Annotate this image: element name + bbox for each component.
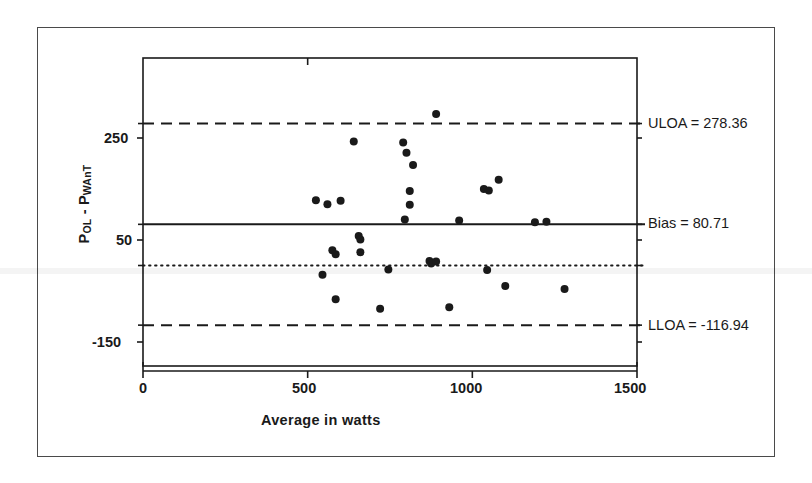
y-axis-title-separator: - xyxy=(76,205,92,219)
data-point xyxy=(384,266,392,274)
data-point xyxy=(350,138,358,146)
data-point xyxy=(483,266,491,274)
data-point xyxy=(445,303,453,311)
data-point xyxy=(531,218,539,226)
data-point xyxy=(561,285,569,293)
plot-frame xyxy=(143,58,637,366)
y-axis-title-p2: P xyxy=(76,195,92,205)
x-tick-label-0: 0 xyxy=(139,380,147,396)
data-point xyxy=(485,187,493,195)
data-point xyxy=(455,217,463,225)
data-point xyxy=(409,161,417,169)
x-tick-label-1500: 1500 xyxy=(614,380,646,396)
y-axis-title: POL - PWAnT xyxy=(76,114,92,294)
x-axis-title: Average in watts xyxy=(261,412,381,428)
lloa-annotation-label: LLOA = -116.94 xyxy=(648,317,749,333)
y-tick-label-50: 50 xyxy=(116,232,132,248)
data-point xyxy=(337,197,345,205)
data-point xyxy=(406,187,414,195)
data-point xyxy=(495,176,503,184)
data-point xyxy=(332,295,340,303)
data-point xyxy=(356,235,364,243)
data-point xyxy=(399,139,407,147)
data-point xyxy=(432,110,440,118)
data-point xyxy=(542,218,550,226)
y-axis-title-sub1: OL xyxy=(81,219,93,234)
uloa-annotation-label: ULOA = 278.36 xyxy=(648,115,748,131)
data-point xyxy=(356,248,364,256)
y-axis-title-sub2: WAnT xyxy=(81,165,93,196)
x-tick-label-500: 500 xyxy=(292,380,316,396)
data-point xyxy=(332,250,340,258)
data-point xyxy=(376,305,384,313)
data-point xyxy=(402,149,410,157)
data-point xyxy=(318,271,326,279)
data-point xyxy=(432,257,440,265)
y-tick-label-neg150: -150 xyxy=(92,334,121,350)
data-point xyxy=(501,282,509,290)
bland-altman-figure: 250 50 -150 0 500 1000 1500 Average in w… xyxy=(0,0,812,483)
x-tick-label-1000: 1000 xyxy=(450,380,482,396)
y-tick-label-250: 250 xyxy=(104,130,128,146)
bias-annotation-label: Bias = 80.71 xyxy=(648,215,729,231)
data-point xyxy=(323,200,331,208)
y-axis-title-p1: P xyxy=(76,234,92,244)
data-point xyxy=(401,216,409,224)
data-point xyxy=(312,196,320,204)
data-point xyxy=(406,201,414,209)
